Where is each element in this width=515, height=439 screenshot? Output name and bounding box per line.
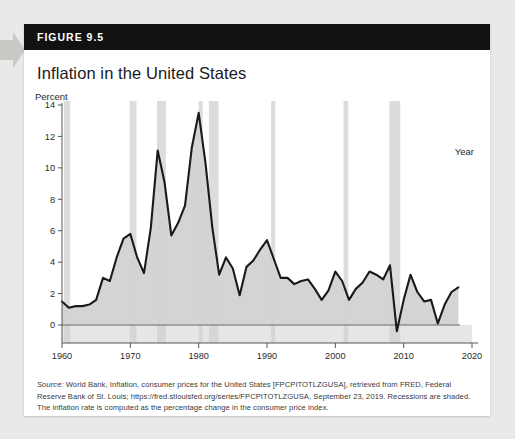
x-axis-tick-label: 2010 — [393, 351, 413, 359]
y-axis-tick-label: 12 — [45, 132, 55, 142]
y-axis-tick-label: 10 — [45, 163, 55, 173]
figure-card: FIGURE 9.5 Inflation in the United State… — [24, 24, 490, 416]
y-axis-tick-label: 14 — [45, 100, 55, 110]
chart-area: Percent Year 024681012141960197019801990… — [24, 91, 490, 359]
figure-title: Inflation in the United States — [37, 64, 490, 83]
x-axis-tick-label: 1990 — [257, 351, 277, 359]
figure-header-band: FIGURE 9.5 — [24, 24, 490, 50]
source-label: Source: — [37, 380, 64, 389]
x-axis-tick-label: 2000 — [325, 351, 345, 359]
below-zero-backing — [62, 325, 472, 343]
x-axis-tick-label: 1960 — [52, 351, 72, 359]
source-note: Source: World Bank, Inflation, consumer … — [37, 379, 477, 414]
y-axis-tick-label: 0 — [50, 320, 55, 330]
y-axis-tick-label: 6 — [50, 226, 55, 236]
y-axis-tick-label: 4 — [50, 257, 55, 267]
figure-number-label: FIGURE 9.5 — [37, 31, 104, 43]
y-axis-tick-label: 8 — [50, 195, 55, 205]
inflation-line-chart: 024681012141960197019801990200020102020 — [24, 91, 490, 359]
x-axis-tick-label: 2020 — [462, 351, 482, 359]
x-axis-tick-label: 1970 — [120, 351, 140, 359]
x-axis-tick-label: 1980 — [188, 351, 208, 359]
page-margin-arrow-icon — [0, 30, 26, 70]
source-text: World Bank, Inflation, consumer prices f… — [37, 380, 470, 412]
y-axis-tick-label: 2 — [50, 289, 55, 299]
